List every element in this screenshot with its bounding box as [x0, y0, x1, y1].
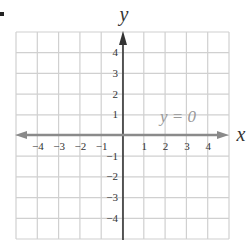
x-tick-label: 2: [163, 140, 169, 152]
x-tick-label: −4: [32, 140, 44, 152]
arrow-up-icon: [119, 31, 127, 45]
y-tick-label: 1: [113, 108, 119, 120]
y-axis-label: y: [118, 3, 129, 26]
y-tick-label: 3: [113, 67, 119, 79]
equation-label: y = 0: [158, 107, 197, 126]
x-tick-label: 3: [184, 140, 190, 152]
x-axis-label: x: [236, 123, 246, 145]
y-tick-label: −2: [106, 170, 118, 182]
arrow-right-icon: [217, 131, 229, 139]
arrow-left-icon: [15, 131, 27, 139]
x-tick-label: −2: [75, 140, 87, 152]
y-tick-label: −1: [106, 150, 118, 162]
y-tick-label: −3: [106, 191, 118, 203]
x-tick-label: 4: [205, 140, 211, 152]
coordinate-plane: −4−3−2−112344321−1−2−3−4 y = 0 x y: [0, 0, 251, 251]
x-tick-label: 1: [142, 140, 148, 152]
y-tick-label: −4: [106, 212, 118, 224]
y-tick-label: 4: [113, 46, 119, 58]
x-tick-label: −3: [53, 140, 65, 152]
y-tick-label: 2: [113, 88, 119, 100]
